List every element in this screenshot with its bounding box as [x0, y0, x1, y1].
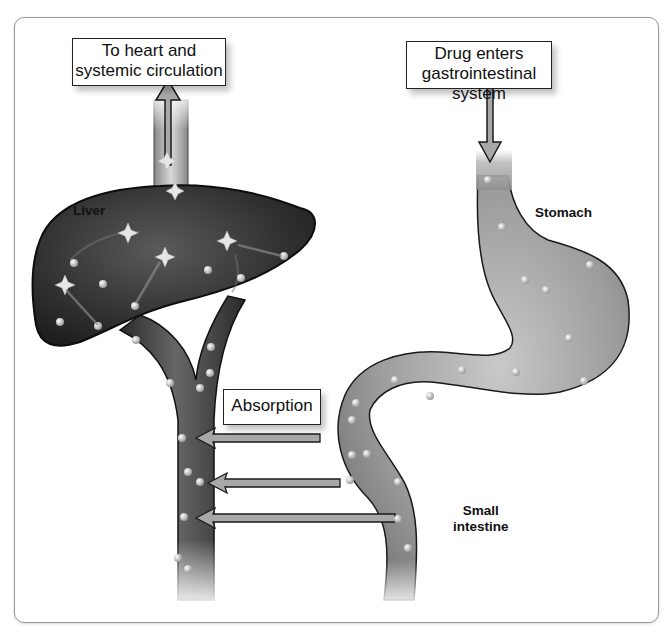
callout-to-heart-line-2: systemic circulation: [73, 61, 225, 81]
absorption-arrow-2-icon: [208, 473, 340, 493]
callout-drug-enters: Drug enters gastrointestinal system: [406, 41, 552, 89]
callout-absorption-text: Absorption: [224, 390, 320, 422]
callout-to-heart: To heart and systemic circulation: [72, 38, 226, 86]
portal-vein: [120, 296, 245, 610]
absorption-arrow-3-icon: [196, 508, 395, 528]
callout-absorption: Absorption: [223, 389, 321, 425]
label-small-intestine-line-2: intestine: [453, 519, 509, 535]
label-small-intestine-line-1: Small: [453, 503, 509, 519]
label-liver: Liver: [73, 203, 105, 219]
callout-drug-enters-line-1: Drug enters: [407, 44, 551, 64]
callout-drug-enters-line-2: gastrointestinal system: [407, 64, 551, 104]
label-small-intestine: Small intestine: [453, 503, 509, 535]
callout-to-heart-line-1: To heart and: [73, 41, 225, 61]
absorption-arrow-1-icon: [196, 428, 320, 448]
diagram-artwork: [0, 0, 664, 636]
label-stomach: Stomach: [535, 205, 592, 221]
